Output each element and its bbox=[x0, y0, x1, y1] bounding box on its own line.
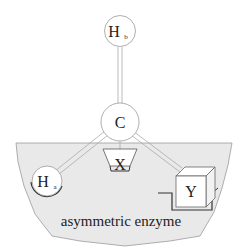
bond-c-hb bbox=[118, 47, 122, 105]
atom-hb-subscript: b bbox=[124, 33, 128, 41]
atom-c-label: C bbox=[115, 114, 126, 131]
atom-hb-label: H bbox=[108, 23, 120, 40]
atom-hb: H b bbox=[105, 16, 136, 47]
atom-ha-label: H bbox=[37, 173, 49, 190]
enzyme-label: asymmetric enzyme bbox=[61, 213, 182, 229]
atom-c: C bbox=[101, 103, 139, 141]
atom-y-label: Y bbox=[185, 183, 197, 200]
diagram-canvas: H b C X H a Y asymmetric enzyme bbox=[0, 0, 249, 252]
atom-x-label: X bbox=[114, 156, 126, 173]
